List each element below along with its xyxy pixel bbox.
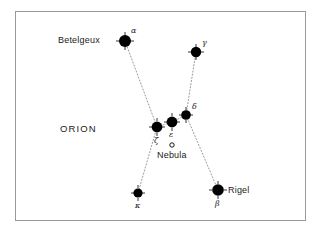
label-gamma-icon: γ bbox=[202, 39, 207, 47]
label-nebula: Nebula bbox=[157, 151, 187, 160]
star-chart-figure: Betelgeux α γ δ ε ζ κ Rigel β ORION Nebu… bbox=[0, 0, 325, 241]
label-constellation-orion: ORION bbox=[60, 124, 97, 134]
nebula-marker-icon bbox=[170, 143, 174, 147]
star-beta-rigel bbox=[212, 184, 224, 196]
label-rigel: Rigel bbox=[228, 186, 250, 195]
line-delta-beta bbox=[186, 115, 218, 190]
star-gamma bbox=[191, 47, 201, 57]
star-tick-marks bbox=[116, 32, 227, 201]
star-alpha-betelgeux bbox=[119, 35, 131, 47]
label-alpha-icon: α bbox=[131, 27, 136, 35]
star-zeta bbox=[152, 122, 163, 133]
line-alpha-zeta bbox=[125, 41, 157, 127]
label-epsilon-icon: ε bbox=[169, 131, 173, 139]
star-kappa bbox=[133, 188, 142, 197]
star-delta bbox=[181, 110, 191, 120]
label-beta-icon: β bbox=[215, 200, 220, 208]
star-epsilon bbox=[167, 117, 178, 128]
label-zeta-icon: ζ bbox=[154, 137, 158, 145]
star-markers bbox=[119, 35, 224, 198]
star-map-canvas bbox=[0, 0, 325, 241]
label-delta-icon: δ bbox=[192, 103, 197, 111]
label-kappa-icon: κ bbox=[135, 202, 140, 210]
label-betelgeux: Betelgeux bbox=[58, 36, 100, 45]
